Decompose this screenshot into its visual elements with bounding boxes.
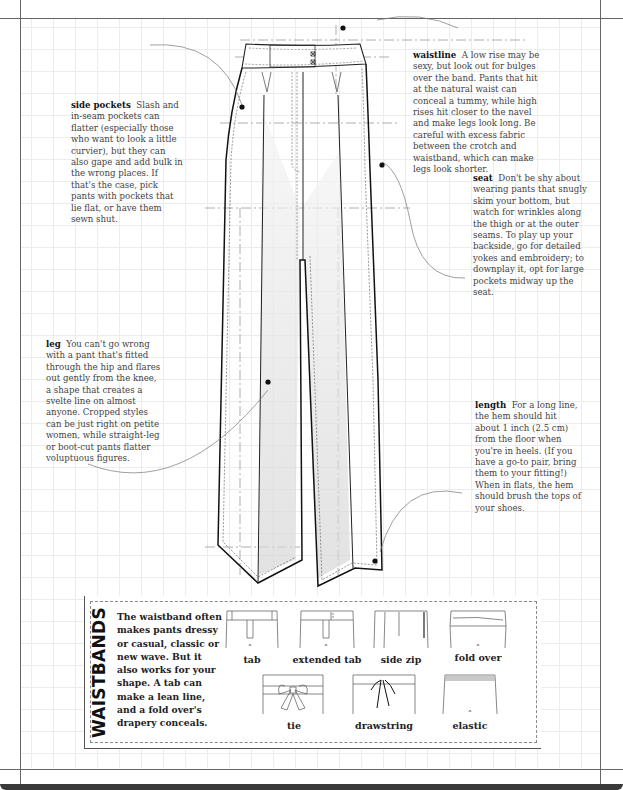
waistband-label-tab: tab [227, 654, 277, 665]
side-zip-waistband-icon [371, 608, 431, 650]
note-waistline: waistline A low rise may be sexy, but lo… [413, 50, 541, 175]
waistband-label-elastic: elastic [441, 720, 499, 731]
extended-tab-waistband-icon [297, 608, 357, 650]
note-seat-term: seat [473, 173, 493, 183]
note-seat-text: Don't be shy about wearing pants that sn… [473, 173, 587, 297]
waistbands-description: The waistband often makes pants dressy o… [117, 610, 222, 730]
note-seat: seat Don't be shy about wearing pants th… [473, 173, 591, 298]
note-waistline-term: waistline [413, 50, 456, 60]
tie-waistband-icon [259, 672, 329, 716]
waistbands-title: WAISTBANDS [89, 608, 109, 738]
note-side-pockets-term: side pockets [71, 100, 131, 110]
elastic-waistband-icon [439, 672, 501, 716]
note-side-pockets: side pockets Slash and in-seam pockets c… [71, 100, 183, 225]
page: waistline A low rise may be sexy, but lo… [0, 0, 623, 790]
fold-over-waistband-icon [447, 608, 509, 650]
note-length-term: length [475, 400, 506, 410]
waistband-label-fold-over: fold over [447, 652, 509, 663]
waistbands-panel: WAISTBANDS The waistband often makes pan… [84, 596, 541, 749]
waistband-label-drawstring: drawstring [347, 720, 421, 731]
note-leg: leg You can't go wrong with a pant that'… [46, 339, 161, 464]
note-leg-term: leg [46, 339, 61, 349]
note-length-text: For a long line, the hem should hit abou… [475, 400, 581, 513]
waistband-label-tie: tie [269, 720, 319, 731]
note-length: length For a long line, the hem should h… [475, 400, 583, 514]
waistband-label-extended-tab: extended tab [291, 654, 363, 665]
drawstring-waistband-icon [349, 672, 419, 716]
note-leg-text: You can't go wrong with a pant that's fi… [46, 339, 160, 463]
note-side-pockets-text: Slash and in-seam pockets can flatter (e… [71, 100, 183, 224]
tab-waistband-icon [223, 608, 281, 650]
waistband-label-side-zip: side zip [371, 654, 431, 665]
note-waistline-text: A low rise may be sexy, but look out for… [413, 50, 539, 174]
